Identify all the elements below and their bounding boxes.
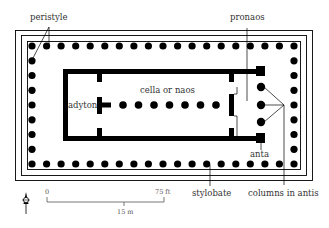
label-cella: cella or naos [140, 85, 195, 95]
peristyle-column [130, 42, 137, 49]
peristyle-column [28, 72, 35, 79]
cella-column [150, 101, 158, 109]
peristyle-column [145, 42, 152, 49]
door-lines [234, 87, 237, 136]
peristyle-column [101, 42, 108, 49]
cella-column [212, 101, 220, 109]
peristyle-column [28, 116, 35, 123]
label-adyton: adyton [68, 100, 98, 110]
cella-column [181, 101, 189, 109]
peristyle-column [276, 160, 283, 167]
peristyle-column [72, 42, 79, 49]
peristyle-column [189, 160, 196, 167]
peristyle-column [116, 42, 123, 49]
peristyle-column [261, 160, 268, 167]
cella-column [197, 101, 205, 109]
peristyle-column [116, 160, 123, 167]
scale-end-label: 75 ft [155, 188, 171, 196]
label-peristyle: peristyle [30, 12, 68, 22]
peristyle-column [87, 160, 94, 167]
scale-start-label: 0 [45, 188, 49, 196]
anta-top [256, 66, 265, 76]
peristyle-column [87, 42, 94, 49]
peristyle-column [189, 42, 196, 49]
peristyle-column [159, 160, 166, 167]
peristyle-column [276, 42, 283, 49]
peristyle-column [247, 42, 254, 49]
peristyle-column [203, 160, 210, 167]
peristyle-column [203, 42, 210, 49]
peristyle-column [218, 160, 225, 167]
peristyle-column [101, 160, 108, 167]
peristyle-column [290, 131, 297, 138]
label-stylobate: stylobate [192, 188, 231, 198]
label-pronaos: pronaos [230, 12, 265, 22]
peristyle-column [290, 160, 297, 167]
scale-bar [47, 197, 164, 206]
peristyle-column [28, 160, 35, 167]
peristyle-column [72, 160, 79, 167]
peristyle-column [28, 57, 35, 64]
north-arrow-icon [22, 192, 30, 214]
peristyle-column [290, 101, 297, 108]
peristyle-column [28, 146, 35, 153]
cella-columns [119, 101, 220, 109]
peristyle-column [290, 87, 297, 94]
label-anta: anta [250, 149, 269, 159]
peristyle-column [218, 42, 225, 49]
peristyle-column [174, 42, 181, 49]
peristyle-column [261, 42, 268, 49]
peristyle-column [28, 87, 35, 94]
peristyle-column [290, 146, 297, 153]
peristyle-column [28, 131, 35, 138]
peristyle-column [290, 116, 297, 123]
peristyle-column [28, 101, 35, 108]
cella-column [135, 101, 143, 109]
peristyle-column [290, 57, 297, 64]
columns-in-antis [257, 83, 265, 126]
peristyle-column [174, 160, 181, 167]
label-columns-in-antis: columns in antis [248, 188, 319, 198]
peristyle-column [159, 42, 166, 49]
peristyle-column [232, 42, 239, 49]
peristyle-column [43, 160, 50, 167]
cella-column [119, 101, 127, 109]
scale-metric-label: 15 m [117, 208, 134, 216]
peristyle-column [247, 160, 254, 167]
peristyle-column [130, 160, 137, 167]
peristyle-column [58, 160, 65, 167]
peristyle-column [232, 160, 239, 167]
temple-plan-diagram: peristyle pronaos cella or naos adyton a… [0, 0, 329, 228]
anta-bottom [256, 133, 265, 143]
cella-column [166, 101, 174, 109]
peristyle-column [145, 160, 152, 167]
peristyle-column [28, 42, 35, 49]
peristyle-column [58, 42, 65, 49]
peristyle-column [290, 72, 297, 79]
peristyle-column [290, 42, 297, 49]
